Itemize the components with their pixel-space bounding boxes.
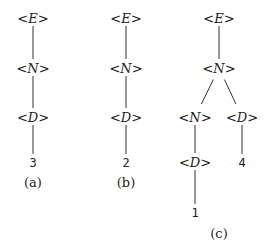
nonterminal-node: <D> — [226, 110, 258, 125]
tree-edge — [224, 80, 235, 104]
nonterminal-node: <D> — [17, 110, 49, 125]
nonterminal-node: <E> — [110, 11, 141, 26]
tree-nodes: <E><N><D>3<E><N><D>2<E><N><N><D><D>41 — [16, 11, 258, 220]
nonterminal-node: <E> — [17, 11, 48, 26]
nonterminal-node: <N> — [202, 61, 235, 76]
tree-edge — [201, 79, 213, 104]
terminal-node: 1 — [191, 206, 198, 220]
figure-caption: (b) — [117, 175, 135, 190]
terminal-node: 4 — [238, 156, 245, 170]
figure-caption: (c) — [210, 226, 227, 241]
figure-caption: (a) — [24, 175, 42, 190]
nonterminal-node: <N> — [109, 61, 142, 76]
nonterminal-node: <N> — [178, 110, 211, 125]
parse-tree-diagram: <E><N><D>3<E><N><D>2<E><N><N><D><D>41 (a… — [0, 0, 270, 248]
terminal-node: 2 — [122, 156, 129, 170]
nonterminal-node: <D> — [179, 155, 211, 170]
nonterminal-node: <E> — [203, 11, 234, 26]
terminal-node: 3 — [29, 156, 36, 170]
nonterminal-node: <N> — [16, 61, 49, 76]
nonterminal-node: <D> — [110, 110, 142, 125]
